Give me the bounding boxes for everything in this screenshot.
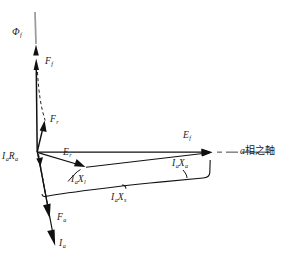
label-phi-f: Φf (12, 27, 22, 37)
vector-E-r (37, 152, 85, 167)
construction-dashed-Fa (38, 72, 46, 121)
label-Ia-Xs: IaXs (111, 193, 126, 203)
label-Ia-Xl: IaXl (71, 175, 86, 185)
vector-F-r (37, 121, 46, 153)
label-I-a: Ia (59, 239, 66, 249)
phasor-diagram-canvas (0, 0, 293, 270)
label-F-r: Fr (50, 115, 59, 125)
vector-phi-f (33, 45, 39, 56)
label-E-f: Ef (183, 131, 191, 141)
label-a-phase-axis: a相之軸 (240, 146, 275, 156)
label-F-a: Fa (57, 213, 66, 223)
flux-axis-continuation (35, 12, 36, 44)
label-Ia-Ra: IaRa (2, 152, 18, 162)
vector-I-a (39, 158, 56, 246)
label-F-f: Ff (45, 57, 53, 67)
vector-F-f (34, 59, 39, 153)
label-Ia-Xa: IaXa (172, 159, 188, 169)
phasor-diagram: Φf Ff Fr IaRa Er IaXl Ef IaXa IaXs Fa Ia… (0, 0, 293, 270)
label-E-r: Er (63, 148, 72, 158)
leader-Ia-Xa (183, 170, 187, 178)
